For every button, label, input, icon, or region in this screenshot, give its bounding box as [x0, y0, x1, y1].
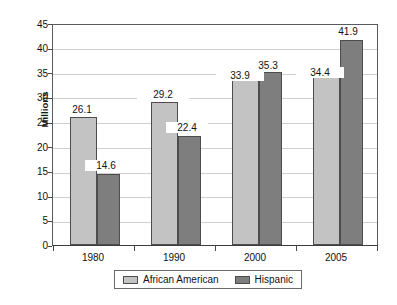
bar-chart-figure: Millions 45 40 35 30 25 20 15 10 5 0 — [0, 0, 397, 305]
chart-legend: African American Hispanic — [114, 270, 302, 289]
gridline-40 — [53, 49, 377, 50]
y-tick-label-10: 10 — [22, 192, 48, 202]
legend-label-african-american: African American — [143, 274, 219, 285]
data-label-2000-hispanic: 35.3 — [247, 60, 289, 71]
bar-1980-african-american[interactable] — [70, 117, 97, 245]
y-tick-label-20: 20 — [22, 143, 48, 153]
data-label-2000-african-american: 33.9 — [216, 70, 264, 81]
x-tick-mark-0 — [53, 246, 54, 251]
y-tick-label-0: 0 — [22, 241, 48, 251]
bar-2000-african-american[interactable] — [232, 79, 259, 245]
x-tick-label-1990: 1990 — [149, 252, 199, 263]
y-tick-label-45: 45 — [22, 20, 48, 30]
data-label-1980-hispanic: 14.6 — [85, 160, 127, 171]
x-tick-mark-4 — [377, 246, 378, 251]
bar-2005-african-american[interactable] — [313, 77, 340, 245]
legend-entry-hispanic[interactable]: Hispanic — [235, 274, 293, 285]
y-tick-label-30: 30 — [22, 93, 48, 103]
x-tick-label-1980: 1980 — [68, 252, 118, 263]
bar-2000-hispanic[interactable] — [259, 72, 282, 245]
y-tick-label-25: 25 — [22, 118, 48, 128]
y-tick-label-5: 5 — [22, 216, 48, 226]
bar-1990-hispanic[interactable] — [178, 136, 201, 246]
legend-swatch-icon-african-american — [123, 276, 138, 284]
data-label-2005-hispanic: 41.9 — [327, 26, 369, 37]
data-label-1990-hispanic: 22.4 — [166, 122, 208, 133]
legend-swatch-icon-hispanic — [235, 276, 250, 284]
x-tick-mark-2 — [215, 246, 216, 251]
bar-1980-hispanic[interactable] — [97, 174, 120, 245]
data-label-1990-african-american: 29.2 — [137, 89, 189, 100]
y-tick-mark-0 — [48, 246, 52, 247]
x-tick-mark-3 — [296, 246, 297, 251]
legend-label-hispanic: Hispanic — [255, 274, 293, 285]
data-label-1980-african-american: 26.1 — [56, 104, 108, 115]
y-axis-title: Millions — [39, 75, 50, 145]
plot-area — [52, 24, 378, 246]
x-tick-label-2005: 2005 — [311, 252, 361, 263]
y-tick-label-15: 15 — [22, 167, 48, 177]
data-label-2005-african-american: 34.4 — [296, 67, 344, 78]
x-tick-label-2000: 2000 — [230, 252, 280, 263]
y-tick-label-40: 40 — [22, 44, 48, 54]
x-tick-mark-1 — [134, 246, 135, 251]
y-tick-label-35: 35 — [22, 69, 48, 79]
legend-entry-african-american[interactable]: African American — [123, 274, 219, 285]
